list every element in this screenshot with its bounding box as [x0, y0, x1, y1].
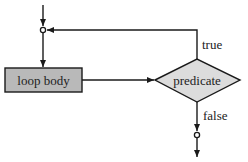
predicate-label: predicate	[173, 73, 221, 88]
loop-body-node: loop body	[5, 68, 82, 92]
true-branch-label: true	[202, 37, 222, 52]
false-branch-label: false	[203, 108, 228, 123]
predicate-node: predicate	[155, 59, 240, 102]
flowchart-canvas: loop body predicate true false	[0, 0, 248, 162]
entry-junction-node	[40, 27, 45, 32]
loop-body-label: loop body	[17, 73, 70, 88]
exit-junction-node	[194, 132, 199, 137]
true-branch-edge	[47, 30, 197, 60]
